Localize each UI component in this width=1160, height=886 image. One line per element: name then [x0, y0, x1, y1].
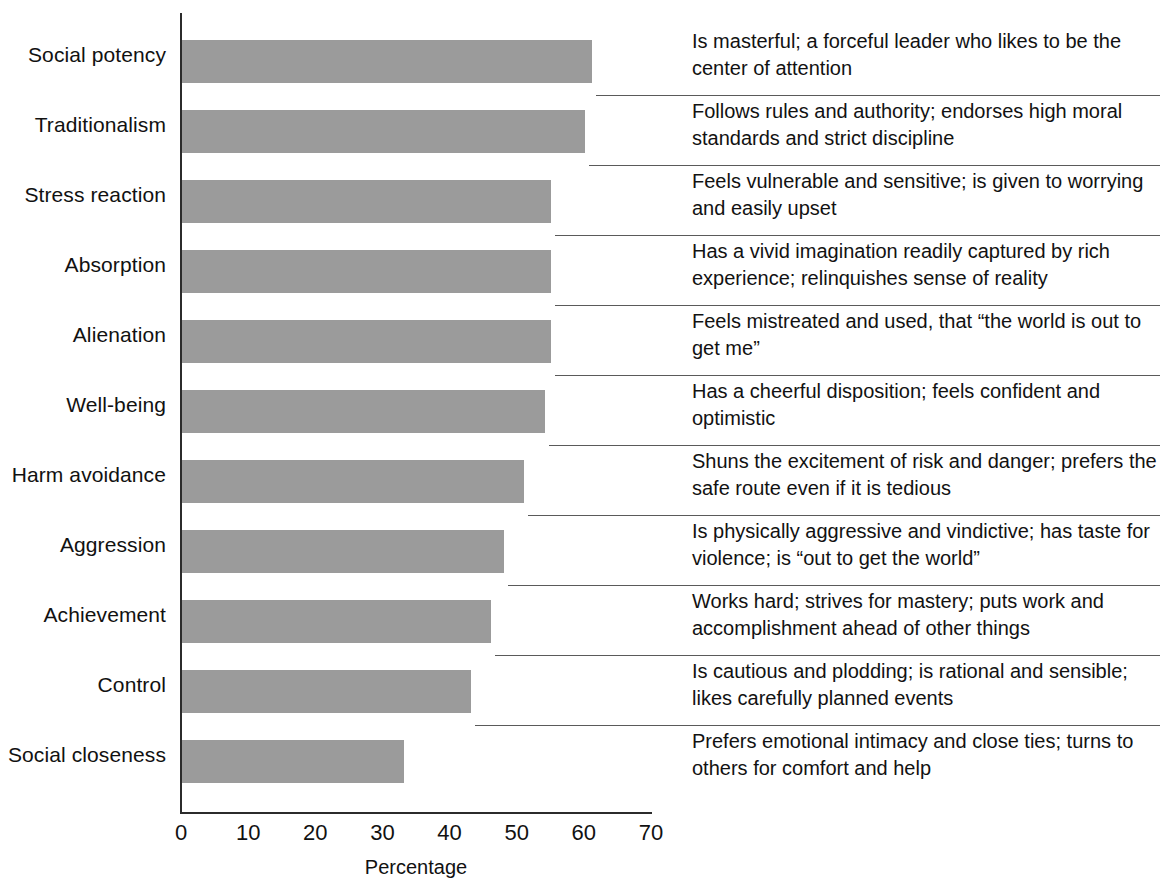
bar-chart-figure: Social potencyIs masterful; a forceful l… [0, 0, 1160, 886]
category-label: Social potency [0, 43, 166, 67]
chart-row: Well-beingHas a cheerful disposition; fe… [0, 370, 1160, 440]
chart-row: Social potencyIs masterful; a forceful l… [0, 20, 1160, 90]
category-label: Social closeness [0, 743, 166, 767]
bar [182, 40, 592, 83]
category-label: Aggression [0, 533, 166, 557]
x-axis-line [180, 812, 652, 814]
category-label: Harm avoidance [0, 463, 166, 487]
chart-row: AbsorptionHas a vivid imagination readil… [0, 230, 1160, 300]
category-label: Traditionalism [0, 113, 166, 137]
trait-description: Is cautious and plodding; is rational an… [692, 658, 1160, 711]
x-tick-label: 20 [285, 820, 345, 846]
trait-description-text: Feels vulnerable and sensitive; is given… [692, 168, 1160, 221]
trait-description-text: Works hard; strives for mastery; puts wo… [692, 588, 1160, 641]
chart-row: Harm avoidanceShuns the excitement of ri… [0, 440, 1160, 510]
trait-description-text: Follows rules and authority; endorses hi… [692, 98, 1160, 151]
trait-description: Has a cheerful disposition; feels confid… [692, 378, 1160, 431]
chart-rows: Social potencyIs masterful; a forceful l… [0, 0, 1160, 812]
chart-row: Stress reactionFeels vulnerable and sens… [0, 160, 1160, 230]
bar [182, 740, 404, 783]
trait-description-text: Has a cheerful disposition; feels confid… [692, 378, 1160, 431]
chart-row: AggressionIs physically aggressive and v… [0, 510, 1160, 580]
trait-description-text: Feels mistreated and used, that “the wor… [692, 308, 1160, 361]
trait-description-text: Shuns the excitement of risk and danger;… [692, 448, 1160, 501]
trait-description: Follows rules and authority; endorses hi… [692, 98, 1160, 151]
category-label: Stress reaction [0, 183, 166, 207]
bar [182, 250, 551, 293]
category-label: Control [0, 673, 166, 697]
x-tick-label: 0 [151, 820, 211, 846]
bar [182, 670, 471, 713]
trait-description-text: Has a vivid imagination readily captured… [692, 238, 1160, 291]
bar [182, 390, 545, 433]
x-tick-label: 40 [420, 820, 480, 846]
trait-description: Has a vivid imagination readily captured… [692, 238, 1160, 291]
bar [182, 320, 551, 363]
x-tick-label: 60 [554, 820, 614, 846]
trait-description-text: Is physically aggressive and vindictive;… [692, 518, 1160, 571]
trait-description: Is masterful; a forceful leader who like… [692, 28, 1160, 81]
chart-row: Social closenessPrefers emotional intima… [0, 720, 1160, 790]
trait-description-text: Is masterful; a forceful leader who like… [692, 28, 1160, 81]
trait-description: Works hard; strives for mastery; puts wo… [692, 588, 1160, 641]
trait-description-text: Is cautious and plodding; is rational an… [692, 658, 1160, 711]
x-tick-label: 50 [487, 820, 547, 846]
category-label: Well-being [0, 393, 166, 417]
trait-description: Feels vulnerable and sensitive; is given… [692, 168, 1160, 221]
trait-description: Feels mistreated and used, that “the wor… [692, 308, 1160, 361]
category-label: Absorption [0, 253, 166, 277]
x-tick-label: 10 [218, 820, 278, 846]
bar [182, 180, 551, 223]
bar [182, 460, 524, 503]
chart-row: TraditionalismFollows rules and authorit… [0, 90, 1160, 160]
trait-description: Shuns the excitement of risk and danger;… [692, 448, 1160, 501]
chart-row: AlienationFeels mistreated and used, tha… [0, 300, 1160, 370]
category-label: Achievement [0, 603, 166, 627]
bar [182, 600, 491, 643]
bar [182, 110, 585, 153]
trait-description-text: Prefers emotional intimacy and close tie… [692, 728, 1160, 781]
bar [182, 530, 504, 573]
x-tick-label: 70 [621, 820, 681, 846]
x-axis-tick-labels: 010203040506070 [0, 820, 1160, 854]
chart-row: AchievementWorks hard; strives for maste… [0, 580, 1160, 650]
x-tick-label: 30 [352, 820, 412, 846]
trait-description: Is physically aggressive and vindictive;… [692, 518, 1160, 571]
chart-row: ControlIs cautious and plodding; is rati… [0, 650, 1160, 720]
trait-description: Prefers emotional intimacy and close tie… [692, 728, 1160, 781]
x-axis-title: Percentage [180, 856, 652, 879]
category-label: Alienation [0, 323, 166, 347]
